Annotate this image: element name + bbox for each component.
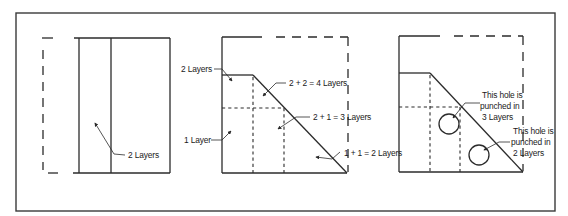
label-one-layer: 1 Layer [184, 135, 211, 145]
label-sum-three: 2 + 1 = 3 Layers [313, 112, 371, 122]
label-hole-three-line2: punched in [480, 101, 520, 111]
label-sum-four: 2 + 2 = 4 Layers [289, 78, 347, 88]
label-two-layers: 2 Layers [181, 64, 212, 74]
figure-frame [16, 13, 555, 211]
label-hole-two-line2: punched in [511, 137, 551, 147]
label-hole-two-line1: This hole is [513, 126, 554, 136]
label-sum-two: 1 + 1 = 2 Layers [344, 148, 402, 158]
label-hole-two-line3: 2 Layers [513, 148, 544, 158]
label-hole-three-line1: This hole is [482, 90, 523, 100]
label-hole-three-line3: 3 Layers [482, 112, 513, 122]
folding-diagram: 2 Layers 2 Layers 1 Layer 2 + 2 = 4 Laye… [0, 0, 568, 216]
label-two-layers: 2 Layers [128, 150, 159, 160]
